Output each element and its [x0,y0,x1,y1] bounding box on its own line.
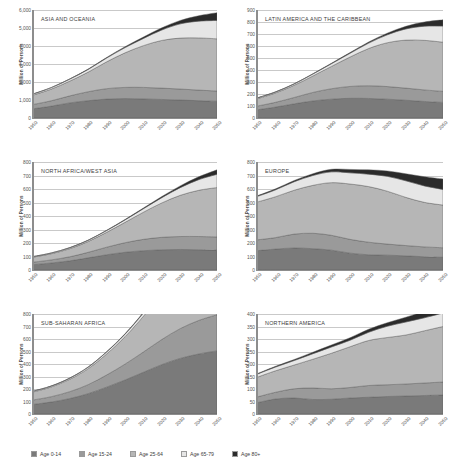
y-axis-line [32,314,34,414]
y-tick-label: 100 [23,399,31,404]
y-tick-label: 300 [247,80,255,85]
y-tick-label: 100 [23,254,31,259]
x-tick-label: 2050 [209,120,222,133]
y-axis-line [256,314,258,414]
x-tick-labels: 1950196019701980199020002010202020302040… [33,118,217,140]
y-tick-label: 200 [247,241,255,246]
x-tick-label: 2020 [154,272,167,285]
stacked-area-series [33,314,217,414]
plot-area: 01,0002,0003,0004,0005,0006,000195019601… [33,10,217,118]
stacked-area-series [257,162,443,270]
y-tick-label: 700 [23,173,31,178]
x-tick-label: 1950 [249,416,262,429]
panel-north-africa-west-asia: Million of Persons0100200300400500600700… [0,152,226,304]
legend-swatch-age_80_plus [232,451,238,457]
y-tick-label: 800 [23,160,31,165]
y-tick-label: 300 [247,227,255,232]
y-tick-label: 0 [252,268,255,273]
y-tick-label: 200 [23,241,31,246]
y-tick-label: 400 [23,214,31,219]
plot-area: 0100200300400500600700800195019601970198… [33,162,217,270]
y-axis-line [32,162,34,270]
legend: Age 0-14Age 15-24Age 25-64Age 65-79Age 8… [0,440,451,467]
x-tick-label: 2030 [398,272,411,285]
panel-title: SUB-SAHARAN AFRICA [41,320,105,326]
y-tick-label: 900 [247,8,255,13]
y-tick-label: 6,000 [19,8,31,13]
x-tick-label: 1990 [323,416,336,429]
x-tick-label: 2020 [379,272,392,285]
y-tick-label: 600 [247,187,255,192]
x-tick-label: 1960 [43,416,56,429]
legend-item-age_25_64[interactable]: Age 25-64 [130,451,163,457]
legend-swatch-age_15_24 [79,451,85,457]
stacked-area-series [257,10,443,118]
x-tick-label: 1990 [323,272,336,285]
x-tick-label: 2050 [209,416,222,429]
panel-europe: Million of Persons0100200300400500600700… [226,152,451,304]
y-tick-label: 5,000 [19,26,31,31]
x-tick-labels: 1950196019701980199020002010202020302040… [257,270,443,292]
x-tick-label: 2020 [154,120,167,133]
panel-title: NORTH AFRICA/WEST ASIA [41,168,117,174]
y-tick-label: 500 [23,349,31,354]
panel-title: ASIA AND OCEANIA [41,16,95,22]
y-tick-label: 400 [247,68,255,73]
legend-label-age_0_14: Age 0-14 [40,451,61,457]
panel-sub-saharan-africa: Million of Persons0100200300400500600700… [0,304,226,440]
legend-item-age_0_14[interactable]: Age 0-14 [31,451,61,457]
x-tick-label: 1990 [99,416,112,429]
y-tick-label: 100 [247,254,255,259]
panel-title: NORTHERN AMERICA [265,320,325,326]
x-tick-label: 2040 [416,120,429,133]
stacked-area-series [33,10,217,118]
y-tick-label: 100 [247,387,255,392]
stacked-area-series [33,162,217,270]
chart-northern-america: Million of Persons0501001502002503003504… [226,304,451,440]
x-tick-label: 1960 [268,120,281,133]
x-tick-label: 1960 [43,120,56,133]
y-tick-label: 0 [252,116,255,121]
y-tick-label: 200 [247,362,255,367]
y-tick-label: 0 [28,116,31,121]
y-tick-label: 2,000 [19,80,31,85]
x-tick-label: 1950 [25,120,38,133]
legend-item-age_65_79[interactable]: Age 65-79 [181,451,214,457]
chart-sub-saharan-africa: Million of Persons0100200300400500600700… [0,304,226,440]
chart-europe: Million of Persons0100200300400500600700… [226,152,451,304]
x-tick-label: 1970 [62,272,75,285]
legend-label-age_15_24: Age 15-24 [88,451,112,457]
y-tick-label: 800 [23,312,31,317]
x-tick-labels: 1950196019701980199020002010202020302040… [33,270,217,292]
y-tick-label: 350 [247,324,255,329]
y-axis-label: Million of Persons [245,43,250,84]
y-tick-label: 400 [23,362,31,367]
plot-area: 0100200300400500600700800195019601970198… [257,162,443,270]
x-tick-label: 1970 [286,272,299,285]
y-tick-label: 500 [247,200,255,205]
y-tick-label: 600 [23,187,31,192]
y-tick-label: 250 [247,349,255,354]
x-tick-label: 1980 [80,120,93,133]
x-tick-label: 1950 [25,272,38,285]
y-tick-label: 4,000 [19,44,31,49]
chart-asia-and-oceania: Million of Persons01,0002,0003,0004,0005… [0,0,226,152]
x-tick-label: 1950 [249,272,262,285]
x-tick-label: 2030 [398,416,411,429]
legend-item-age_15_24[interactable]: Age 15-24 [79,451,112,457]
panel-title: LATIN AMERICA AND THE CARIBBEAN [265,16,371,22]
x-tick-label: 1980 [305,416,318,429]
x-tick-label: 1970 [62,120,75,133]
y-tick-label: 500 [247,56,255,61]
x-tick-label: 2010 [361,416,374,429]
x-tick-label: 2040 [416,416,429,429]
legend-label-age_25_64: Age 25-64 [139,451,163,457]
x-tick-label: 2040 [191,272,204,285]
x-tick-label: 2020 [379,120,392,133]
legend-item-age_80_plus[interactable]: Age 80+ [232,451,260,457]
y-tick-label: 200 [247,92,255,97]
x-tick-label: 2000 [342,120,355,133]
plot-area: 0100200300400500600700800195019601970198… [33,314,217,414]
y-axis-line [256,10,258,118]
x-tick-label: 2020 [379,416,392,429]
